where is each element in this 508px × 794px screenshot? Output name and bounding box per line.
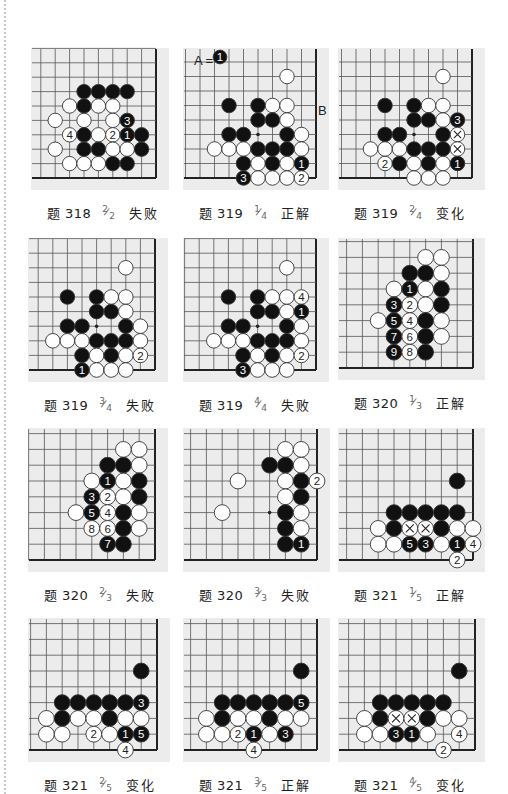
go-diagram-8: 21 题 320 3 / 3 失败 — [180, 425, 330, 615]
black-stone — [421, 156, 436, 171]
white-stone — [451, 711, 467, 727]
svg-text:1: 1 — [217, 51, 223, 63]
black-stone — [434, 281, 450, 297]
white-stone: 8 — [84, 521, 100, 537]
black-stone — [134, 142, 148, 156]
svg-text:1: 1 — [124, 129, 130, 141]
diagram-caption: 题 319 3 / 4 失败 — [25, 394, 175, 414]
diagram-caption: 题 320 2 / 3 失败 — [25, 584, 175, 604]
result-label: 正解 — [281, 203, 311, 222]
black-stone — [280, 142, 295, 157]
white-stone — [280, 304, 295, 319]
black-stone: 1 — [75, 363, 90, 378]
white-stone: 2 — [100, 489, 116, 505]
white-stone — [116, 489, 132, 505]
svg-text:5: 5 — [407, 538, 413, 550]
black-stone — [278, 536, 294, 552]
white-stone — [418, 250, 434, 266]
black-stone: 1 — [293, 536, 309, 552]
white-stone — [236, 334, 251, 349]
fraction-denominator: 4 — [261, 403, 267, 413]
problem-number: 题 320 — [44, 585, 88, 604]
white-stone: 2 — [402, 297, 418, 313]
white-stone — [46, 334, 61, 349]
svg-text:9: 9 — [391, 346, 397, 358]
fraction-denominator: 4 — [106, 403, 112, 413]
svg-text:3: 3 — [282, 728, 288, 740]
svg-text:1: 1 — [409, 728, 415, 740]
svg-text:1: 1 — [407, 283, 413, 295]
board-annotation: A = — [194, 53, 213, 68]
white-stone — [86, 711, 102, 727]
svg-text:4: 4 — [104, 507, 111, 519]
black-stone — [106, 156, 120, 170]
white-stone — [91, 128, 105, 142]
white-stone — [48, 142, 62, 156]
white-stone — [221, 334, 236, 349]
white-stone — [91, 99, 105, 113]
white-stone: 4 — [62, 128, 76, 142]
white-stone — [262, 726, 278, 742]
black-stone: 5 — [293, 695, 309, 711]
black-stone — [100, 457, 116, 473]
white-stone — [265, 98, 280, 113]
black-stone — [278, 521, 294, 537]
white-stone — [265, 171, 280, 186]
white-stone: 2 — [309, 473, 325, 489]
black-stone — [434, 297, 450, 313]
black-stone — [280, 127, 295, 142]
black-stone — [372, 695, 388, 711]
white-stone: 4 — [402, 313, 418, 329]
white-stone — [357, 711, 373, 727]
white-stone — [118, 711, 134, 727]
black-stone: 1 — [246, 726, 262, 742]
black-stone — [54, 695, 70, 711]
go-diagram-10: 32154 题 321 2 / 5 变化 — [25, 615, 175, 794]
black-stone — [116, 521, 132, 537]
white-stone — [434, 536, 450, 552]
black-stone — [250, 334, 265, 349]
white-stone — [280, 113, 295, 128]
diagram-fraction: 2 / 5 — [98, 776, 112, 792]
black-stone: 3 — [84, 489, 100, 505]
white-stone — [418, 297, 434, 313]
svg-text:2: 2 — [314, 475, 320, 487]
black-stone — [221, 319, 236, 334]
white-stone — [450, 142, 465, 157]
black-stone — [262, 457, 278, 473]
white-stone — [116, 442, 132, 458]
white-stone — [265, 363, 280, 378]
white-stone — [39, 726, 55, 742]
black-stone — [418, 329, 434, 345]
black-stone — [262, 695, 278, 711]
white-stone — [119, 261, 134, 276]
star-point — [268, 511, 272, 515]
white-stone — [293, 505, 309, 521]
white-stone — [421, 171, 436, 186]
black-stone — [436, 142, 451, 157]
white-stone — [104, 363, 119, 378]
svg-text:4: 4 — [66, 129, 73, 141]
black-stone — [265, 304, 280, 319]
svg-text:2: 2 — [407, 299, 413, 311]
svg-text:4: 4 — [122, 744, 129, 756]
black-stone — [407, 113, 422, 128]
fraction-denominator: 3 — [106, 593, 112, 603]
white-stone — [280, 171, 295, 186]
svg-text:1: 1 — [298, 538, 304, 550]
diagram-caption: 题 319 1 / 4 正解 — [180, 202, 330, 222]
black-stone: 3 — [418, 536, 434, 552]
black-stone — [420, 711, 436, 727]
black-stone — [118, 695, 134, 711]
problem-number: 题 321 — [199, 775, 243, 794]
white-stone: 2 — [86, 726, 102, 742]
black-stone — [388, 695, 404, 711]
white-stone — [89, 348, 104, 363]
black-stone — [119, 334, 134, 349]
white-stone — [436, 171, 451, 186]
black-stone: 1 — [294, 156, 309, 171]
black-stone — [451, 663, 467, 679]
result-label: 失败 — [129, 203, 159, 222]
white-stone — [450, 127, 465, 142]
diagram-caption: 题 321 4 / 5 变化 — [335, 774, 485, 794]
